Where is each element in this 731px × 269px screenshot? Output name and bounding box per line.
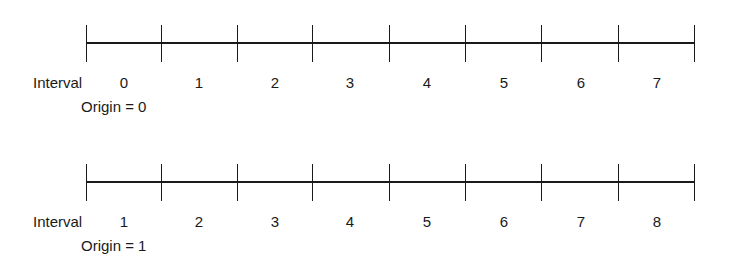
interval-number: 4 [423, 75, 431, 90]
interval-number: 7 [653, 75, 661, 90]
axis-line [86, 42, 695, 44]
interval-number: 3 [346, 75, 354, 90]
tick-mark [465, 164, 466, 201]
tick-mark [86, 164, 87, 201]
interval-number: 7 [577, 214, 585, 229]
interval-number: 2 [195, 214, 203, 229]
number-line-origin-1: Interval 1 2 3 4 5 6 7 8 Origin = 1 [0, 135, 731, 269]
interval-number: 2 [271, 75, 279, 90]
tick-mark [312, 164, 313, 201]
tick-mark [541, 164, 542, 201]
interval-label: Interval [33, 75, 82, 90]
tick-mark [618, 25, 619, 62]
tick-mark [86, 25, 87, 62]
tick-mark [618, 164, 619, 201]
tick-mark [312, 25, 313, 62]
tick-mark [389, 164, 390, 201]
tick-mark [237, 25, 238, 62]
tick-mark [161, 25, 162, 62]
interval-number: 1 [120, 214, 128, 229]
interval-number: 4 [346, 214, 354, 229]
interval-number: 5 [423, 214, 431, 229]
interval-number: 6 [500, 214, 508, 229]
tick-mark [237, 164, 238, 201]
interval-number: 0 [120, 75, 128, 90]
interval-number: 3 [271, 214, 279, 229]
origin-label: Origin = 0 [81, 99, 146, 114]
tick-mark [465, 25, 466, 62]
number-line-origin-0: Interval 0 1 2 3 4 5 6 7 Origin = 0 [0, 0, 731, 134]
interval-number: 1 [195, 75, 203, 90]
tick-mark [541, 25, 542, 62]
interval-number: 8 [653, 214, 661, 229]
origin-label: Origin = 1 [81, 238, 146, 253]
interval-number: 5 [500, 75, 508, 90]
interval-label: Interval [33, 214, 82, 229]
tick-mark [694, 25, 695, 62]
tick-mark [389, 25, 390, 62]
axis-line [86, 181, 695, 183]
interval-number: 6 [577, 75, 585, 90]
tick-mark [694, 164, 695, 201]
tick-mark [161, 164, 162, 201]
